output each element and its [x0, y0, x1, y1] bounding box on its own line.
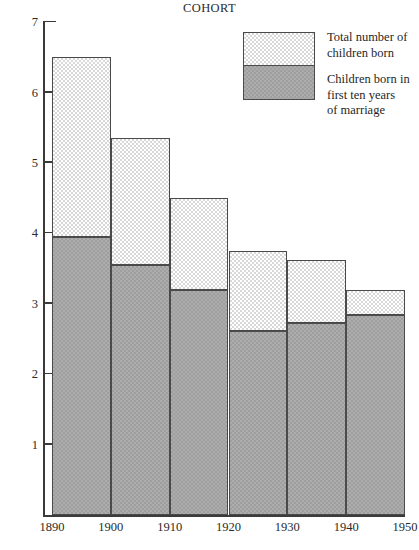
- bar-segment-total-1890-1900[interactable]: [52, 57, 111, 237]
- cohort-bar-chart: COHORT 1234567 1890190019101920193019401…: [0, 0, 419, 550]
- bar-segment-first-ten-years-1930-1940[interactable]: [287, 323, 346, 515]
- legend-swatch: [243, 32, 315, 100]
- bar-segment-total-1930-1940[interactable]: [287, 260, 346, 323]
- y-axis-label-2: 2: [32, 367, 38, 382]
- x-axis-label-1930: 1930: [275, 520, 300, 535]
- y-axis-label-7: 7: [32, 15, 38, 30]
- y-axis-label-6: 6: [32, 85, 38, 100]
- bar-1900-1910[interactable]: [111, 138, 170, 515]
- bar-1930-1940[interactable]: [287, 260, 346, 516]
- legend-entry-total: Total number of children born: [327, 30, 419, 61]
- legend-entry-first-ten-years: Children born in first ten years of marr…: [327, 72, 419, 119]
- x-axis-label-1910: 1910: [157, 520, 182, 535]
- bar-segment-total-1940-1950[interactable]: [346, 290, 405, 315]
- bar-segment-first-ten-years-1900-1910[interactable]: [111, 265, 170, 515]
- bar-1920-1930[interactable]: [229, 251, 288, 515]
- y-axis-label-4: 4: [32, 226, 38, 241]
- legend-entry-total-line2: children born: [327, 46, 419, 62]
- y-axis-line: [43, 22, 45, 516]
- x-axis-label-1940: 1940: [334, 520, 359, 535]
- legend-swatch-first-ten-years: [244, 66, 314, 99]
- chart-title: COHORT: [0, 1, 419, 16]
- y-axis-label-3: 3: [32, 296, 38, 311]
- bar-segment-first-ten-years-1890-1900[interactable]: [52, 237, 111, 515]
- bar-1910-1920[interactable]: [170, 198, 229, 515]
- bar-segment-total-1900-1910[interactable]: [111, 138, 170, 265]
- bar-segment-total-1920-1930[interactable]: [229, 251, 288, 331]
- x-axis-label-1900: 1900: [98, 520, 123, 535]
- y-tick-7: [43, 21, 56, 23]
- bar-segment-first-ten-years-1910-1920[interactable]: [170, 290, 229, 516]
- y-axis-label-1: 1: [32, 437, 38, 452]
- bar-1890-1900[interactable]: [52, 57, 111, 515]
- legend-swatch-total: [244, 33, 314, 66]
- x-axis-label-1950: 1950: [393, 520, 418, 535]
- legend-labels: Total number of children born Children b…: [327, 30, 419, 119]
- legend-entry-first-line1: Children born in: [327, 72, 419, 88]
- legend-entry-total-line1: Total number of: [327, 30, 419, 46]
- y-axis-label-5: 5: [32, 155, 38, 170]
- x-axis-label-1920: 1920: [216, 520, 241, 535]
- legend-entry-first-line2: first ten years: [327, 88, 419, 104]
- x-axis-label-1890: 1890: [40, 520, 65, 535]
- legend-entry-first-line3: of marriage: [327, 103, 419, 119]
- bar-segment-total-1910-1920[interactable]: [170, 198, 229, 290]
- bar-segment-first-ten-years-1940-1950[interactable]: [346, 315, 405, 516]
- x-axis-line: [43, 515, 405, 517]
- bar-segment-first-ten-years-1920-1930[interactable]: [229, 331, 288, 516]
- bar-1940-1950[interactable]: [346, 290, 405, 516]
